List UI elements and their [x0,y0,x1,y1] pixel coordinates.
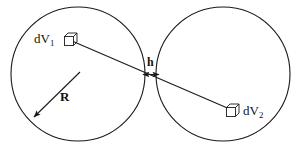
label-dv2: dV2 [243,104,263,120]
connector-line [72,41,232,110]
diagram-canvas: dV1 dV2 h R [0,0,300,148]
cube-icon-dv1 [65,33,78,46]
right-circle [156,7,290,141]
label-radius-r: R [60,90,69,103]
label-dv2-text: dV [243,103,259,118]
label-dv2-subscript: 2 [259,110,263,120]
label-dv1-text: dV [34,31,50,46]
label-dv1-subscript: 1 [50,38,54,48]
label-dv1: dV1 [34,32,54,48]
cube-icon-dv2 [227,104,240,117]
label-gap-h: h [147,56,154,68]
diagram-vector-layer [0,0,300,148]
radius-line [34,72,80,117]
